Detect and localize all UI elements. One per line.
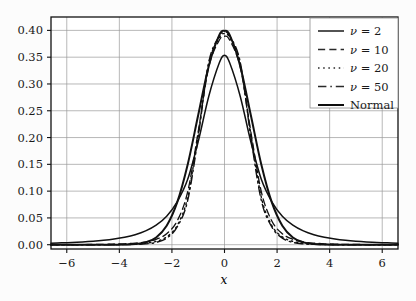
legend-label: Normal <box>350 98 394 112</box>
legend-label: ν = 2 <box>350 24 381 38</box>
y-tick-label: 0.05 <box>17 211 43 225</box>
y-tick-label: 0.00 <box>17 238 43 252</box>
y-tick-label: 0.15 <box>17 157 43 171</box>
y-tick-label: 0.40 <box>17 23 43 37</box>
x-tick-label: 6 <box>379 256 386 270</box>
y-tick-label: 0.35 <box>17 50 43 64</box>
x-tick-label: 2 <box>273 256 280 270</box>
legend-label: ν = 20 <box>350 61 389 75</box>
x-tick-label: −6 <box>58 256 75 270</box>
x-tick-label: −2 <box>163 256 180 270</box>
y-tick-label: 0.30 <box>17 77 43 91</box>
x-tick-label: 4 <box>326 256 333 270</box>
legend[interactable]: ν = 2ν = 10ν = 20ν = 50Normal <box>310 18 398 112</box>
y-tick-label: 0.20 <box>17 131 43 145</box>
x-tick-label: −4 <box>111 256 128 270</box>
x-tick-label: 0 <box>221 256 228 270</box>
y-axis-tick-labels: 0.000.050.100.150.200.250.300.350.40 <box>17 23 43 251</box>
y-tick-label: 0.25 <box>17 104 43 118</box>
x-axis-label: x <box>221 273 228 287</box>
legend-label: ν = 10 <box>350 43 389 57</box>
legend-label: ν = 50 <box>350 80 389 94</box>
y-tick-label: 0.10 <box>17 184 43 198</box>
t-distribution-chart: 0.000.050.100.150.200.250.300.350.40 −6−… <box>0 0 416 301</box>
